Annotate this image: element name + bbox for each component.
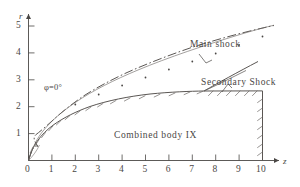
- x-tick-label-5: 5: [142, 165, 147, 175]
- x-tick-label-8: 8: [213, 165, 218, 175]
- y-tick-label-3: 3: [16, 75, 21, 85]
- x-tick-label-6: 6: [166, 165, 171, 175]
- x-tick-label-4: 4: [119, 165, 124, 175]
- body-hatching: [30, 91, 262, 156]
- combined-body-label: Combined body IX: [114, 131, 197, 141]
- plot-svg: [0, 0, 300, 187]
- x-tick-label-1: 1: [49, 165, 54, 175]
- x-tick-label-0: 0: [25, 165, 30, 175]
- figure-canvas: r z 5 4 3 2 1 0 1 2 3 4 5 6 7 8 9 10 φ=0…: [0, 0, 300, 187]
- x-tick-label-9: 9: [236, 165, 241, 175]
- x-axis-ticks: [29, 155, 263, 161]
- x-axis-label: z: [283, 157, 287, 166]
- body-curve-path: [29, 91, 205, 161]
- y-tick-label-5: 5: [16, 21, 21, 31]
- x-tick-label-3: 3: [96, 165, 101, 175]
- y-tick-label-2: 2: [16, 102, 21, 112]
- x-tick-label-10: 10: [256, 165, 266, 175]
- main-shock-leader: [199, 54, 212, 63]
- y-axis-ticks: [29, 26, 35, 134]
- y-tick-label-1: 1: [16, 129, 21, 139]
- y-tick-label-4: 4: [16, 48, 21, 58]
- x-tick-label-7: 7: [189, 165, 194, 175]
- flow-angle-annotation: φ=0°: [44, 83, 62, 92]
- x-tick-label-2: 2: [72, 165, 77, 175]
- body-surface: [29, 91, 263, 161]
- secondary-shock-label: Secondary Shock: [201, 78, 276, 88]
- main-shock-label: Main shock: [190, 40, 241, 50]
